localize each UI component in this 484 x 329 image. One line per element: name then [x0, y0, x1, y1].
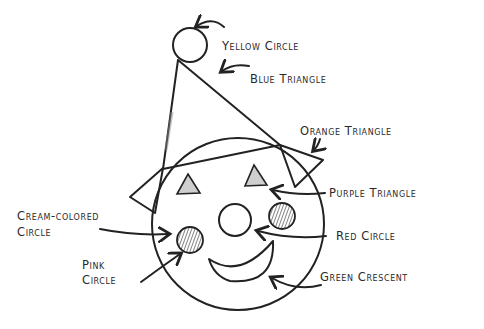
mouth-crescent	[209, 241, 273, 281]
arrow-pink-circle	[141, 254, 180, 282]
label-cream-circle-line2: Circle	[17, 225, 51, 239]
arrow-blue-triangle	[222, 65, 249, 71]
left-eye-triangle	[177, 174, 200, 194]
clown-diagram: Yellow Circle Blue Triangle Orange Trian…	[0, 0, 484, 329]
left-ear-triangle	[130, 168, 163, 213]
arrow-red-circle	[258, 231, 326, 237]
face-circle	[152, 138, 324, 310]
label-cream-circle-line1: Cream-colored	[17, 209, 99, 223]
left-cheek-circle	[177, 227, 203, 253]
label-green-crescent: Green Crescent	[320, 270, 408, 284]
label-blue-triangle: Blue Triangle	[250, 72, 326, 86]
label-pink-circle-line1: Pink	[82, 258, 105, 272]
arrow-orange-triangle	[314, 139, 320, 150]
label-orange-triangle: Orange Triangle	[300, 124, 392, 138]
arrow-green-crescent	[272, 278, 321, 287]
label-red-circle: Red Circle	[336, 229, 396, 243]
label-pink-circle-line2: Circle	[82, 273, 116, 287]
right-cheek-circle	[269, 203, 295, 229]
arrow-cream-circle	[100, 229, 168, 234]
right-eye-triangle	[245, 165, 267, 186]
label-yellow-circle: Yellow Circle	[221, 39, 299, 53]
arrow-yellow-circle	[197, 21, 224, 27]
label-purple-triangle: Purple Triangle	[329, 186, 416, 200]
pompom-circle	[173, 28, 207, 62]
nose-circle	[219, 204, 251, 236]
